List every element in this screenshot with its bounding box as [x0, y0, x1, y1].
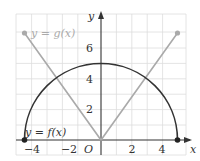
- g-right-endpoint: [175, 30, 180, 35]
- y-tick-label: 4: [86, 73, 93, 86]
- x-axis-label: x: [190, 143, 197, 156]
- x-tick-label: 4: [159, 143, 166, 156]
- origin-label: O: [84, 143, 93, 156]
- y-axis-label: y: [87, 10, 95, 23]
- f-series-label: y = f(x): [24, 126, 66, 139]
- x-tick-label: 2: [129, 143, 136, 156]
- y-tick-label: 2: [86, 103, 93, 116]
- x-tick-label: −2: [61, 143, 77, 156]
- function-graph: −4 −2 2 4 2 4 6 O x y y = g(x) y = f(x): [0, 0, 200, 161]
- g-series-label: y = g(x): [30, 27, 75, 40]
- g-left-endpoint: [22, 30, 27, 35]
- x-tick-label: −4: [24, 143, 40, 156]
- y-axis-arrow-icon: [98, 11, 104, 19]
- y-tick-label: 6: [86, 42, 93, 55]
- f-right-endpoint: [175, 137, 181, 143]
